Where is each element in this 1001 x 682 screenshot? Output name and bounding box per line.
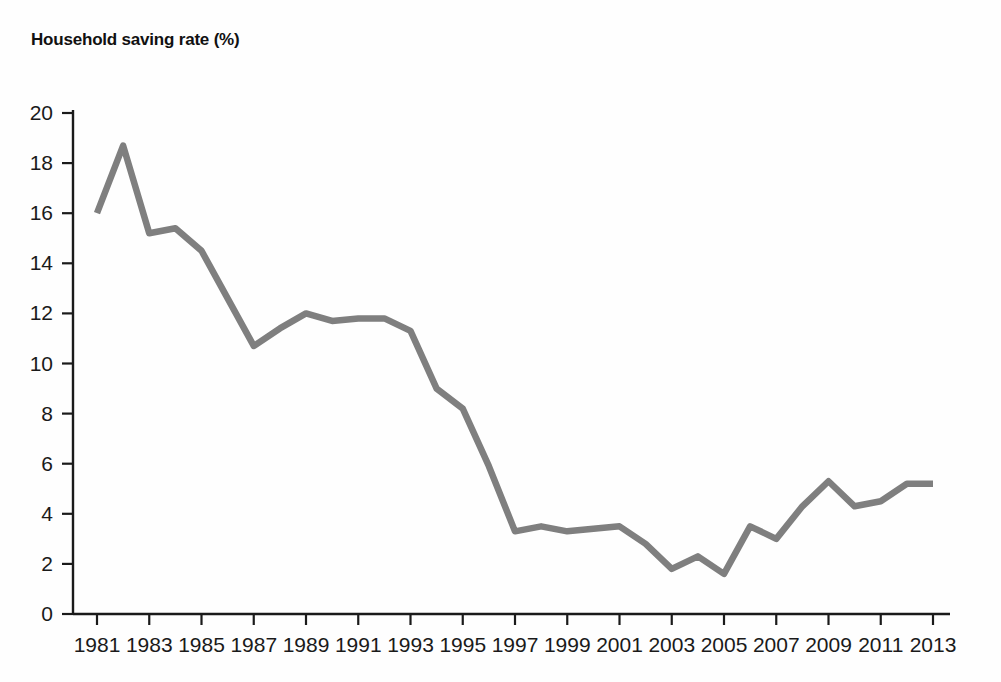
x-tick-label: 1993 (387, 633, 434, 656)
y-tick-label: 12 (30, 301, 53, 324)
y-tick-label: 6 (41, 452, 53, 475)
data-series-group (97, 146, 933, 574)
x-tick-label: 2007 (753, 633, 800, 656)
x-axis: 1981198319851987198919911993199519971999… (73, 614, 956, 656)
y-tick-label: 16 (30, 201, 53, 224)
y-tick-label: 14 (30, 251, 54, 274)
y-tick-label: 10 (30, 352, 53, 375)
line-chart-plot: 02468101214161820 1981198319851987198919… (0, 0, 1001, 682)
x-tick-label: 2001 (596, 633, 643, 656)
x-tick-label: 1999 (544, 633, 591, 656)
x-tick-label: 1985 (178, 633, 225, 656)
x-tick-label: 1987 (230, 633, 277, 656)
x-tick-label: 2013 (910, 633, 957, 656)
x-tick-label: 2011 (858, 633, 903, 656)
y-axis: 02468101214161820 (30, 101, 73, 625)
x-tick-label: 1997 (492, 633, 539, 656)
y-tick-label: 20 (30, 101, 53, 124)
x-tick-label: 1995 (439, 633, 486, 656)
data-line-series-0 (97, 146, 933, 574)
chart-figure: Household saving rate (%) 02468101214161… (0, 0, 1001, 682)
x-tick-label: 1989 (283, 633, 330, 656)
x-tick-label: 2005 (701, 633, 748, 656)
y-tick-label: 2 (41, 552, 53, 575)
y-tick-label: 0 (41, 602, 53, 625)
x-tick-label: 2003 (648, 633, 695, 656)
x-tick-label: 1991 (335, 633, 382, 656)
y-tick-label: 4 (41, 502, 53, 525)
x-tick-label: 2009 (805, 633, 852, 656)
x-tick-label: 1981 (74, 633, 121, 656)
y-tick-label: 18 (30, 151, 53, 174)
y-tick-label: 8 (41, 402, 53, 425)
x-tick-label: 1983 (126, 633, 173, 656)
